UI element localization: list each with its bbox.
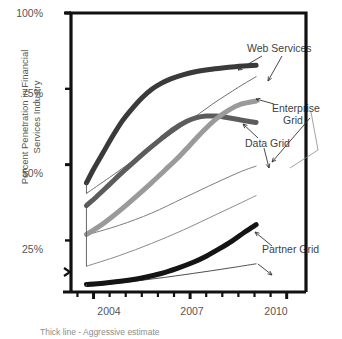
series-enterprise-grid-thin [86,196,256,267]
series-data-grid-thin [86,166,256,235]
arrow-enterprise-grid-thin [272,118,310,162]
arrow-web-services-thin [268,56,282,81]
y-axis-break-mark [64,268,70,276]
arrow-data-grid [243,124,258,138]
chart-figure: ' Percent Penetration in Financial Servi… [0,0,342,339]
series-partner-grid-thick [86,225,256,285]
plot-frame [71,13,306,292]
series-enterprise-grid-thick [86,101,256,234]
chart-plot-svg [0,0,342,339]
arrow-partner-grid-thin [258,264,272,275]
series-data-grid-thick [86,116,256,206]
series-layer [86,65,256,286]
arrow-partner-grid [255,232,272,246]
leader-enterprise-grid-conservative [290,112,318,168]
